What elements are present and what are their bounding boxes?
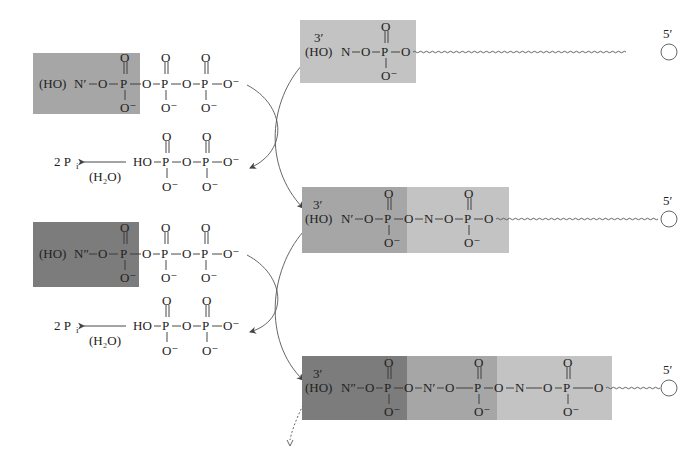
continuation-arrowhead-icon <box>287 440 293 446</box>
growing-chain-2: 3′ (HO) N′ O P O O⁻ O N O P O O⁻ O 5′ <box>302 186 677 253</box>
oxygen-label: O <box>142 246 151 261</box>
oxygen-label: O <box>161 220 170 235</box>
hydroxyl-label: HO <box>133 318 152 333</box>
elongation-arrow-2 <box>275 232 303 380</box>
released-pyrophosphate-2: 2 P i (H₂O) HO P O O⁻ O P O O⁻ O⁻ <box>54 293 239 358</box>
three-prime-label: 3′ <box>314 30 324 45</box>
oxygen-label: O <box>444 211 453 226</box>
oxygen-anion-label: O⁻ <box>474 404 490 419</box>
pi-subscript: i <box>76 325 79 335</box>
three-prime-label: 3′ <box>313 366 323 381</box>
five-prime-end-icon <box>661 211 677 227</box>
hydroxyl-label: (HO) <box>305 211 332 226</box>
three-prime-label: 3′ <box>313 197 323 212</box>
oxygen-label: O <box>445 380 454 395</box>
hydroxyl-label: HO <box>133 154 152 169</box>
oxygen-label: O <box>563 355 572 370</box>
phosphorus-label: P <box>202 318 209 333</box>
oxygen-anion-label: O⁻ <box>120 270 136 285</box>
phosphorus-label: P <box>202 154 209 169</box>
phosphorus-label: P <box>120 246 127 261</box>
phosphorus-label: P <box>464 211 471 226</box>
base-label: N <box>424 211 434 226</box>
hydroxyl-label: (HO) <box>39 76 66 91</box>
oxygen-label: O <box>98 246 107 261</box>
oxygen-label: O <box>120 50 129 65</box>
growing-chain-3: 3′ (HO) N″ O P O O⁻ O N′ O P O O⁻ O N O … <box>302 355 677 420</box>
nucleotide-N-box <box>407 187 509 253</box>
growing-chain-1: 3′ (HO) N O P O O⁻ O 5′ <box>300 19 677 83</box>
oxygen-label: O <box>594 380 603 395</box>
hydroxyl-label: (HO) <box>39 246 66 261</box>
oxygen-anion-label: O⁻ <box>201 100 217 115</box>
pyrophosphate-release-arrow-1 <box>247 85 278 168</box>
pi-subscript: i <box>76 161 79 171</box>
oxygen-label: O <box>182 76 191 91</box>
oxygen-label: O <box>120 220 129 235</box>
oxygen-label: O <box>381 19 390 34</box>
base-label: N <box>341 44 351 59</box>
base-label: N′ <box>74 76 86 91</box>
oxygen-anion-label: O⁻ <box>162 179 178 194</box>
phosphorus-label: P <box>384 380 391 395</box>
phosphorus-label: P <box>381 44 388 59</box>
base-label: N′ <box>423 380 435 395</box>
elongation-arrow-1 <box>275 64 303 208</box>
phosphorus-label: P <box>201 246 208 261</box>
oxygen-anion-label: O⁻ <box>381 68 397 83</box>
pi-label: 2 P <box>54 154 71 169</box>
oxygen-label: O <box>404 380 413 395</box>
oxygen-anion-label: O⁻ <box>202 179 218 194</box>
oxygen-label: O <box>162 129 171 144</box>
oxygen-anion-label: O⁻ <box>201 270 217 285</box>
oxygen-label: O <box>365 380 374 395</box>
oxygen-label: O <box>182 154 191 169</box>
polynucleotide-backbone <box>413 51 626 53</box>
oxygen-anion-label: O⁻ <box>384 404 400 419</box>
five-prime-end-icon <box>661 380 677 396</box>
water-label: (H₂O) <box>89 169 121 184</box>
oxygen-anion-label: O⁻ <box>162 343 178 358</box>
phosphorus-label: P <box>563 380 570 395</box>
five-prime-end-icon <box>661 44 677 60</box>
polynucleotide-backbone <box>496 218 658 220</box>
oxygen-anion-label: O⁻ <box>223 318 239 333</box>
oxygen-label: O <box>401 44 410 59</box>
oxygen-label: O <box>142 76 151 91</box>
released-pyrophosphate-1: 2 P i (H₂O) HO P O O⁻ O P O O⁻ O⁻ <box>54 129 239 194</box>
oxygen-label: O <box>543 380 552 395</box>
hydroxyl-label: (HO) <box>305 380 332 395</box>
water-label: (H₂O) <box>89 333 121 348</box>
oxygen-label: O <box>201 220 210 235</box>
phosphorus-label: P <box>384 211 391 226</box>
oxygen-label: O <box>98 76 107 91</box>
oxygen-label: O <box>384 186 393 201</box>
phosphorus-label: P <box>162 154 169 169</box>
oxygen-label: O <box>202 293 211 308</box>
base-label: N′ <box>341 211 353 226</box>
oxygen-label: O <box>364 211 373 226</box>
base-label: N″ <box>341 380 356 395</box>
oxygen-label: O <box>162 293 171 308</box>
pyrophosphate-release-arrow-2 <box>247 255 278 332</box>
oxygen-anion-label: O⁻ <box>120 100 136 115</box>
oxygen-label: O <box>404 211 413 226</box>
incoming-nucleotide-N2: (HO) N″ O P O O⁻ O P O O⁻ O P O O⁻ O⁻ <box>33 220 239 287</box>
oxygen-label: O <box>201 50 210 65</box>
oxygen-anion-label: O⁻ <box>202 343 218 358</box>
oxygen-anion-label: O⁻ <box>464 235 480 250</box>
five-prime-label: 5′ <box>663 362 673 377</box>
oxygen-label: O <box>161 50 170 65</box>
oxygen-anion-label: O⁻ <box>563 404 579 419</box>
phosphorus-label: P <box>201 76 208 91</box>
oxygen-label: O <box>484 211 493 226</box>
oxygen-label: O <box>182 246 191 261</box>
polynucleotide-backbone <box>606 387 660 389</box>
hydroxyl-label: (HO) <box>305 44 332 59</box>
oxygen-anion-label: O⁻ <box>223 76 239 91</box>
continuation-arrow <box>290 405 303 440</box>
five-prime-label: 5′ <box>663 193 673 208</box>
phosphorus-label: P <box>120 76 127 91</box>
phosphorus-label: P <box>161 76 168 91</box>
oxygen-label: O <box>384 355 393 370</box>
